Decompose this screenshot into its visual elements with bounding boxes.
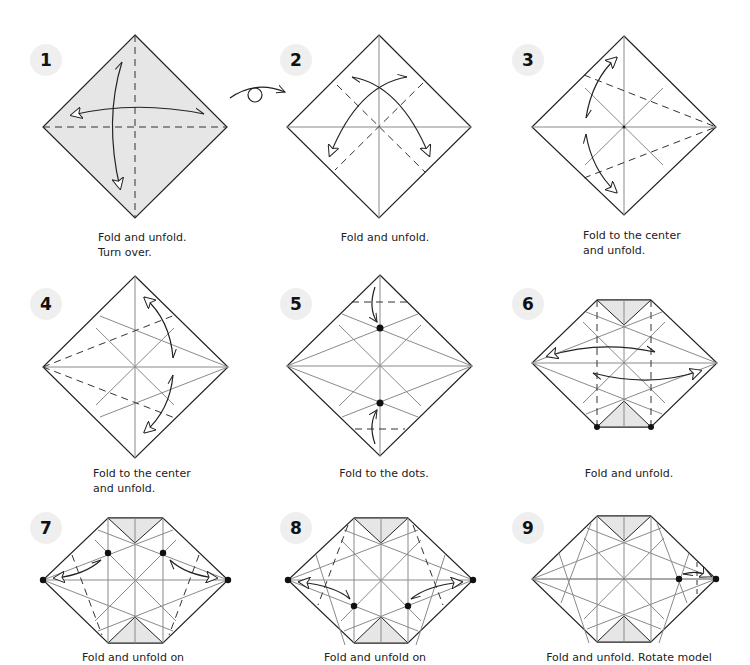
step-5-diagram — [287, 275, 472, 456]
step-number-badge: 8 — [280, 512, 312, 544]
step-caption: Fold and unfold. Turn over. — [98, 230, 186, 260]
step-8-diagram — [285, 518, 476, 645]
step-6-diagram — [532, 300, 717, 430]
dot-marker — [377, 400, 384, 407]
dot-marker — [377, 325, 384, 332]
step-number-badge: 4 — [30, 288, 62, 320]
step-number-badge: 1 — [30, 44, 62, 76]
step-number-badge: 2 — [280, 44, 312, 76]
step-4-diagram — [43, 276, 228, 458]
turn-over-icon — [230, 87, 285, 102]
step-caption: Fold and unfold. — [585, 466, 673, 481]
step-7-diagram — [40, 518, 231, 643]
step-number-badge: 5 — [280, 288, 312, 320]
step-2-diagram — [287, 35, 471, 218]
step-9-diagram — [532, 516, 719, 643]
diagrams-canvas — [0, 0, 750, 665]
step-number-badge: 3 — [512, 44, 544, 76]
step-number-badge: 9 — [512, 512, 544, 544]
step-3-diagram — [532, 36, 716, 215]
step-caption: Fold to the dots. — [339, 466, 429, 481]
step-number-badge: 6 — [512, 288, 544, 320]
step-caption: Fold and unfold on — [82, 650, 184, 665]
instruction-sheet: 1 2 3 4 5 6 7 8 9 Fold and unfold. Turn … — [0, 0, 750, 665]
step-caption: Fold and unfold on — [324, 650, 426, 665]
step-caption: Fold to the center and unfold. — [93, 466, 191, 496]
step-caption: Fold to the center and unfold. — [583, 228, 681, 258]
step-caption: Fold and unfold. — [341, 230, 429, 245]
step-number-badge: 7 — [30, 512, 62, 544]
step-caption: Fold and unfold. Rotate model — [546, 650, 712, 665]
step-1-diagram — [43, 35, 227, 218]
